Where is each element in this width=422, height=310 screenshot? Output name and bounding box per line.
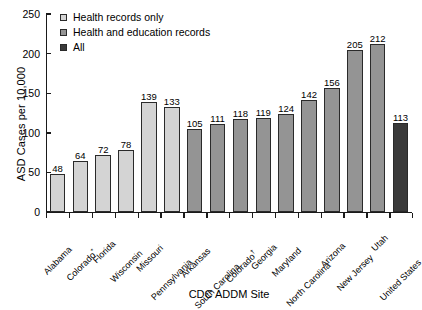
x-label-slot: Missouri (138, 219, 161, 285)
y-axis-tick-label: 100 (22, 127, 46, 139)
bar-value-label: 119 (256, 108, 271, 118)
x-tick-mark (115, 213, 116, 218)
y-axis-tick-label: 200 (22, 48, 46, 60)
y-axis-tick-label: 250 (22, 8, 46, 20)
x-tick-slot (298, 213, 321, 218)
x-tick-mark (160, 213, 161, 218)
bar[interactable]: 48 (50, 174, 66, 212)
x-label-slot: North Carolina (298, 219, 321, 285)
x-tick-slot (252, 213, 275, 218)
x-axis-title: CDC ADDM Site (46, 288, 412, 300)
x-tick-mark (366, 213, 367, 218)
bar-value-label: 139 (141, 92, 157, 102)
x-tick-slot (183, 213, 206, 218)
bar-slot: 142 (298, 14, 321, 212)
bar[interactable]: 119 (256, 118, 272, 212)
x-tick-mark (138, 213, 139, 218)
bar[interactable]: 212 (370, 44, 386, 212)
x-label-slot: Pennsylvania (160, 219, 183, 285)
bar-value-label: 212 (370, 34, 386, 44)
x-tick-mark (206, 213, 207, 218)
x-label-slot: Colorado† (229, 219, 252, 285)
bar-value-label: 133 (164, 97, 180, 107)
legend-item[interactable]: Health and education records (60, 27, 210, 38)
bar-value-label: 78 (121, 140, 132, 150)
bar-slot: 119 (252, 14, 275, 212)
y-axis-tick-label: 0 (34, 206, 46, 218)
x-tick-slot (366, 213, 389, 218)
bar[interactable]: 156 (324, 88, 340, 212)
bar[interactable]: 139 (141, 102, 157, 212)
legend-item[interactable]: Health records only (60, 12, 210, 23)
bar-value-label: 205 (347, 40, 363, 50)
bar[interactable]: 133 (164, 107, 180, 212)
x-tick-mark (412, 213, 413, 218)
bar[interactable]: 205 (347, 50, 363, 212)
x-tick-slot (92, 213, 115, 218)
legend-label: Health records only (73, 12, 163, 23)
x-label-slot: Colorado* (69, 219, 92, 285)
x-tick-mark (229, 213, 230, 218)
x-tick-slot (206, 213, 229, 218)
x-label-slot: Utah (366, 219, 389, 285)
bar-slot: 118 (229, 14, 252, 212)
x-label-slot: Arkansas (183, 219, 206, 285)
bar[interactable]: 118 (233, 119, 249, 212)
bar-value-label: 156 (324, 78, 340, 88)
bar[interactable]: 142 (301, 100, 317, 212)
x-axis-tick-labels: AlabamaColorado*FloridaWisconsinMissouri… (46, 219, 412, 285)
x-tick-mark (321, 213, 322, 218)
x-tick-slot (321, 213, 344, 218)
bar-value-label: 124 (278, 104, 294, 114)
x-tick-mark (92, 213, 93, 218)
x-tick-mark (252, 213, 253, 218)
bar-slot: 113 (389, 14, 412, 212)
x-tick-slot (160, 213, 183, 218)
bar-value-label: 48 (52, 164, 63, 174)
y-axis-title: ASD Cases per 10,000 (15, 49, 27, 199)
x-tick-mark (183, 213, 184, 218)
x-tick-slot (115, 213, 138, 218)
x-axis-category-label: Utah (370, 233, 390, 253)
x-axis-ticks (46, 213, 412, 218)
x-tick-slot (275, 213, 298, 218)
x-tick-slot (229, 213, 252, 218)
x-label-slot: Wisconsin (115, 219, 138, 285)
bar[interactable]: 105 (187, 129, 203, 212)
bar[interactable]: 72 (95, 155, 111, 212)
x-label-slot: New Jersey (343, 219, 366, 285)
bar-slot: 124 (275, 14, 298, 212)
bar-slot: 212 (366, 14, 389, 212)
x-tick-mark (343, 213, 344, 218)
y-axis-tick-label: 150 (22, 87, 46, 99)
bar[interactable]: 113 (393, 123, 409, 212)
legend-swatch-icon (60, 14, 67, 21)
bar-value-label: 64 (75, 151, 86, 161)
bar-slot: 156 (321, 14, 344, 212)
asd-cases-bar-chart: ASD Cases per 10,000 050100150200250 486… (0, 0, 422, 310)
x-tick-slot (69, 213, 92, 218)
bar-value-label: 105 (187, 119, 203, 129)
bar-slot: 205 (343, 14, 366, 212)
bar[interactable]: 111 (210, 124, 226, 212)
x-tick-slot (138, 213, 161, 218)
x-tick-slot (389, 213, 412, 218)
bar[interactable]: 124 (278, 114, 294, 212)
bar-value-label: 118 (233, 109, 248, 119)
bar[interactable]: 78 (118, 150, 134, 212)
x-tick-slot (46, 213, 69, 218)
x-tick-slot (343, 213, 366, 218)
x-label-slot: Maryland (275, 219, 298, 285)
legend-label: All (73, 42, 85, 53)
legend-swatch-icon (60, 44, 67, 51)
bar[interactable]: 64 (73, 161, 89, 212)
x-tick-mark (298, 213, 299, 218)
legend-item[interactable]: All (60, 42, 210, 53)
bar-value-label: 72 (98, 145, 109, 155)
x-tick-mark (69, 213, 70, 218)
x-label-slot: United States (389, 219, 412, 285)
legend-swatch-icon (60, 29, 67, 36)
x-label-slot: Georgia (252, 219, 275, 285)
bar-value-label: 142 (301, 90, 317, 100)
bar-value-label: 111 (210, 114, 224, 124)
